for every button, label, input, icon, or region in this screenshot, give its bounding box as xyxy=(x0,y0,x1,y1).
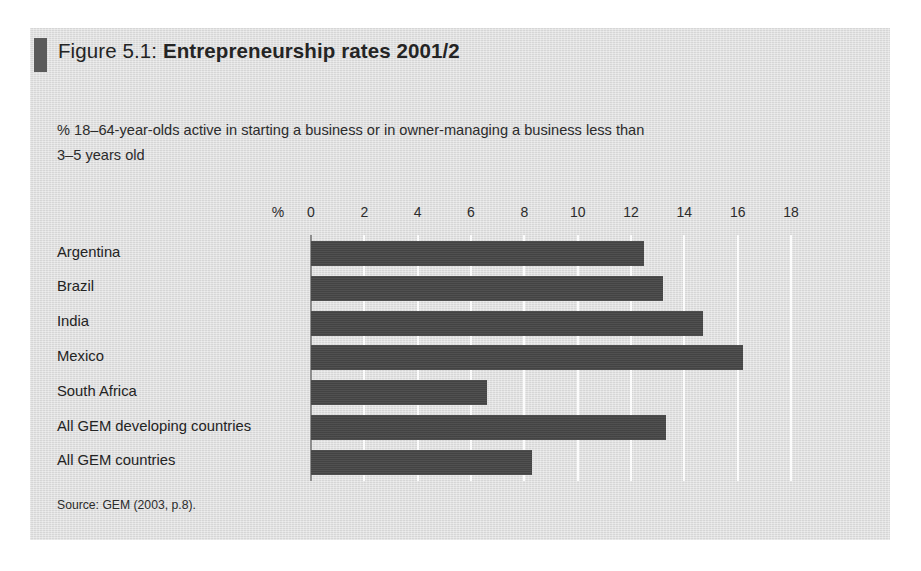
x-tick-label-0: 0 xyxy=(296,204,326,220)
category-label: Mexico xyxy=(57,348,305,364)
bar xyxy=(311,450,532,475)
x-tick-label-16: 16 xyxy=(723,204,753,220)
figure-panel: Figure 5.1: Entrepreneurship rates 2001/… xyxy=(30,28,890,540)
category-label: Argentina xyxy=(57,244,305,260)
x-axis-unit-label: % xyxy=(268,204,288,220)
x-tick-label-10: 10 xyxy=(563,204,593,220)
category-label: All GEM countries xyxy=(57,452,305,468)
x-tick-label-18: 18 xyxy=(776,204,806,220)
gridline-18 xyxy=(790,235,792,481)
x-tick-label-12: 12 xyxy=(616,204,646,220)
x-tick-label-4: 4 xyxy=(403,204,433,220)
category-label: South Africa xyxy=(57,383,305,399)
bar xyxy=(311,276,663,301)
category-label: All GEM developing countries xyxy=(57,418,305,434)
x-tick-label-14: 14 xyxy=(669,204,699,220)
x-tick-label-8: 8 xyxy=(509,204,539,220)
bar xyxy=(311,415,666,440)
x-tick-label-6: 6 xyxy=(456,204,486,220)
category-label: Brazil xyxy=(57,278,305,294)
bar xyxy=(311,311,703,336)
bar xyxy=(311,380,487,405)
category-label: India xyxy=(57,313,305,329)
bar xyxy=(311,345,743,370)
bar xyxy=(311,241,644,266)
bar-chart: % 024681012141618 ArgentinaBrazilIndiaMe… xyxy=(30,28,890,540)
x-tick-label-2: 2 xyxy=(349,204,379,220)
source-note: Source: GEM (2003, p.8). xyxy=(57,498,196,512)
